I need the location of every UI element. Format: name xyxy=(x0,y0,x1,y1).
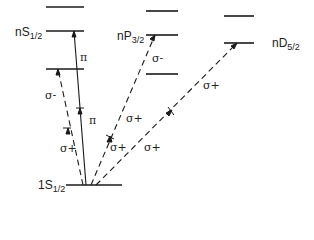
label-nP: nP3/2 xyxy=(117,30,144,46)
arrowhead-pi-mid xyxy=(78,108,82,114)
label-nD-main: nD xyxy=(272,36,287,50)
label-sigma-plus-d: σ+ xyxy=(203,80,220,91)
label-nP-sub: 3/2 xyxy=(132,35,145,45)
label-sigma-plus-p: σ+ xyxy=(126,113,143,124)
label-pi-lower: π xyxy=(89,115,96,126)
transition-sigma-s xyxy=(58,69,83,185)
label-sigma-plus-p2: σ+ xyxy=(110,142,127,153)
label-nS: nS1/2 xyxy=(15,26,42,42)
label-ground: 1S1/2 xyxy=(38,179,65,195)
arrowhead-s-top xyxy=(56,69,60,75)
label-nS-sub: 1/2 xyxy=(30,31,43,41)
label-pi-upper: π xyxy=(80,52,87,63)
label-sigma-minus-p: σ- xyxy=(152,53,163,64)
transition-sigma-p xyxy=(91,35,155,185)
label-sigma-minus-s: σ- xyxy=(45,90,56,101)
label-nD: nD5/2 xyxy=(272,37,300,53)
label-nD-sub: 5/2 xyxy=(287,42,300,52)
label-nP-main: nP xyxy=(117,29,132,43)
label-ground-main: 1S xyxy=(38,178,53,192)
label-ground-sub: 1/2 xyxy=(53,184,66,194)
arrowhead-pi-top xyxy=(72,31,76,37)
label-sigma-plus-s: σ+ xyxy=(60,143,77,154)
arrowhead-s-mid xyxy=(66,128,70,134)
arrowhead-p-top xyxy=(150,35,155,41)
label-sigma-plus-d2: σ+ xyxy=(144,142,161,153)
label-nS-main: nS xyxy=(15,25,30,39)
